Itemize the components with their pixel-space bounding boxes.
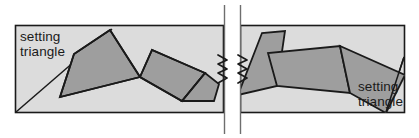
left-label-line2: triangle (20, 44, 65, 59)
right-band-panel: setting triangle (238, 26, 405, 114)
left-band-panel: setting triangle (16, 26, 224, 113)
left-label-line1: setting (20, 29, 60, 44)
setting-triangle-diagram: setting triangle setting triangle (0, 0, 419, 138)
right-label-line1: setting (358, 79, 398, 94)
diagram-canvas: setting triangle setting triangle (0, 0, 419, 138)
right-label-line2: triangle (358, 94, 403, 109)
setting-triangle-shape-5 (268, 46, 350, 93)
